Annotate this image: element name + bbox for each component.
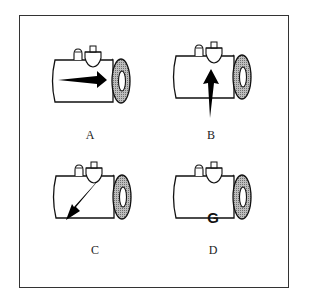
meter-cylinder-b <box>174 42 252 118</box>
diagram-canvas <box>0 0 310 303</box>
panel-label-a: A <box>86 129 95 141</box>
panel-label-d: D <box>209 244 218 256</box>
panel-label-c: C <box>91 244 99 256</box>
panel-d-letter: G <box>207 210 219 225</box>
meter-cylinder-a <box>53 46 131 103</box>
panel-label-b: B <box>207 129 215 141</box>
meter-cylinder-c <box>54 162 132 220</box>
